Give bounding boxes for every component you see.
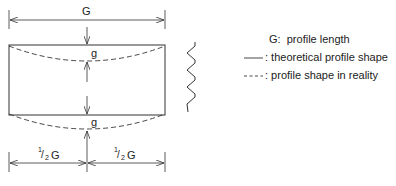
top-gap-label: g xyxy=(91,47,97,59)
top-gap-indicator: g xyxy=(87,27,97,82)
legend-text: : theoretical profile shape xyxy=(265,51,388,63)
svg-text:/: / xyxy=(41,149,44,160)
real-profile-bottom-curve xyxy=(9,114,165,129)
svg-text:G: G xyxy=(51,149,60,161)
svg-text:G: G xyxy=(127,149,136,161)
half-right-label: 1 / 2 G xyxy=(114,146,136,161)
legend-item-profile-length: G: profile length xyxy=(269,33,350,45)
legend-item-reality: : profile shape in reality xyxy=(265,69,378,81)
svg-text:2: 2 xyxy=(121,154,125,161)
profile-diagram: G g g 1 / 2 G 1 / 2 G xyxy=(0,0,396,186)
svg-text:/: / xyxy=(117,149,120,160)
legend-item-theoretical: : theoretical profile shape xyxy=(265,51,388,63)
legend-text: : profile shape in reality xyxy=(265,69,378,81)
half-left-label: 1 / 2 G xyxy=(38,146,60,161)
legend-text: profile length xyxy=(287,33,350,45)
bottom-gap-indicator: g xyxy=(87,96,97,150)
svg-text:2: 2 xyxy=(45,154,49,161)
bottom-gap-label: g xyxy=(91,116,97,128)
overall-length-dimension: G xyxy=(9,5,165,29)
overall-length-label: G xyxy=(82,5,91,17)
wavy-profile-icon xyxy=(187,42,195,112)
legend-symbol: G: xyxy=(269,33,281,45)
real-profile-top-curve xyxy=(9,46,165,61)
